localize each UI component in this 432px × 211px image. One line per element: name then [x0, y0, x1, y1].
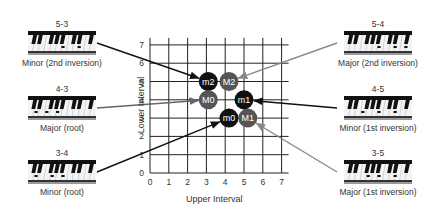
- svg-text:M1: M1: [242, 113, 255, 123]
- svg-text:M2: M2: [223, 77, 236, 87]
- y-tick-label: 0: [139, 168, 144, 178]
- x-tick-label: 2: [185, 177, 190, 187]
- chord-name-label: Major (2nd inversion): [328, 58, 428, 68]
- chord-interval-label: 4-3: [32, 84, 92, 94]
- chord-interval-label: 5-3: [32, 19, 92, 29]
- y-tick-label: 7: [139, 40, 144, 50]
- chord-name-label: Minor (1st inversion): [328, 123, 428, 133]
- x-tick-label: 7: [279, 177, 284, 187]
- chord-name-label: Minor (root): [12, 187, 112, 197]
- arrow-c54: [238, 43, 337, 78]
- piano-keyboard-c34: [28, 160, 96, 184]
- piano-keyboard-c45: [344, 96, 412, 120]
- chord-interval-label: 5-4: [348, 19, 408, 29]
- chord-name-label: Major (root): [12, 123, 112, 133]
- chord-interval-label: 4-5: [348, 84, 408, 94]
- chord-node-m1: m1: [235, 90, 254, 109]
- x-tick-label: 0: [148, 177, 153, 187]
- chord-interval-label: 3-4: [32, 148, 92, 158]
- svg-text:m1: m1: [238, 95, 251, 105]
- arrow-c34: [97, 122, 220, 172]
- arrow-c43: [97, 101, 198, 108]
- piano-keyboard-c35: [344, 160, 412, 184]
- chord-node-M0: M0: [199, 90, 218, 109]
- arrow-c53: [97, 43, 199, 78]
- piano-keyboard-c54: [344, 31, 412, 55]
- piano-keyboard-c53: [28, 31, 96, 55]
- x-tick-label: 6: [260, 177, 265, 187]
- svg-text:M0: M0: [202, 95, 215, 105]
- interval-grid: 0123456701234567m2M2M0m1m0M1: [0, 0, 432, 211]
- x-tick-label: 4: [223, 177, 228, 187]
- x-tick-label: 5: [242, 177, 247, 187]
- x-tick-label: 3: [204, 177, 209, 187]
- chord-name-label: Minor (2nd inversion): [12, 58, 112, 68]
- chord-name-label: Major (1st inversion): [328, 187, 428, 197]
- chord-node-m0: m0: [219, 109, 238, 128]
- svg-text:m2: m2: [202, 77, 215, 87]
- arrow-c35: [256, 123, 337, 172]
- chord-interval-label: 3-5: [348, 148, 408, 158]
- chord-node-M1: M1: [238, 109, 257, 128]
- piano-keyboard-c43: [28, 96, 96, 120]
- y-axis-label: Lower Interval: [136, 77, 146, 134]
- chord-node-m2: m2: [199, 72, 218, 91]
- chord-interval-diagram: 0123456701234567m2M2M0m1m0M1 Lower Inter…: [0, 0, 432, 211]
- svg-text:m0: m0: [223, 113, 236, 123]
- grid-lines: [150, 38, 289, 173]
- x-tick-label: 1: [166, 177, 171, 187]
- chord-node-M2: M2: [219, 72, 238, 91]
- x-axis-label: Upper Interval: [186, 194, 243, 204]
- arrow-c45: [254, 101, 337, 108]
